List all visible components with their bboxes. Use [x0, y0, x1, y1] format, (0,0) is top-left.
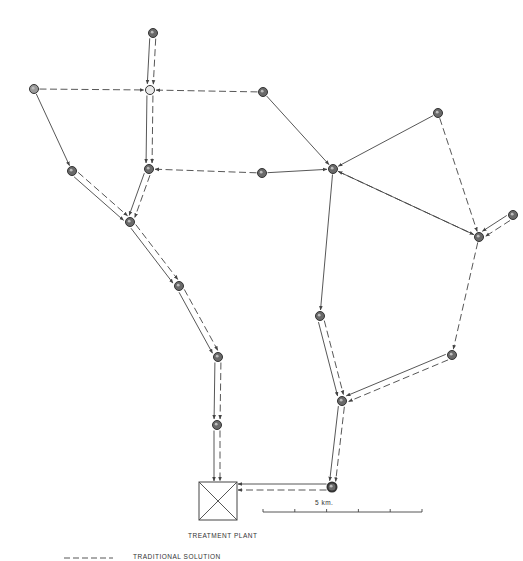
- optimised-edge-N1-N2: [147, 38, 149, 84]
- traditional-edge-N3-N2: [39, 89, 144, 90]
- treatment-plant: [199, 482, 237, 520]
- traditional-edge-N2-N6: [152, 96, 153, 164]
- node-N2: [146, 86, 155, 95]
- optimised-edge-N15-N18: [214, 362, 215, 419]
- optimised-edge-N14-N17: [318, 322, 337, 396]
- scale-label: 5 km.: [315, 499, 333, 506]
- traditional-edge-N6-N10: [135, 175, 150, 217]
- traditional-edge-N10-N13: [136, 225, 178, 280]
- traditional-edge-N7-N6: [155, 169, 257, 173]
- network-diagram: [0, 0, 523, 561]
- optimised-edge-N2-N6: [146, 95, 147, 163]
- optimised-edge-N6-N10: [129, 173, 144, 215]
- traditional-edge-N11-N16: [453, 242, 477, 349]
- optimised-edge-N7-N8: [267, 169, 327, 172]
- traditional-edge-N4-N2: [156, 90, 258, 92]
- optimised-edge-N3-N5: [36, 94, 69, 166]
- traditional-solution-edges: [39, 39, 510, 490]
- optimised-edge-N5-N10: [74, 177, 123, 220]
- legend-label-traditional: TRADITIONAL SOLUTION: [133, 553, 221, 560]
- optimised-edge-N12-N11: [482, 215, 506, 231]
- scale-bar: [263, 509, 422, 512]
- optimised-solution-edges: [36, 38, 506, 484]
- traditional-edge-N15-N18: [220, 363, 221, 420]
- traditional-edge-N1-N2: [153, 39, 155, 85]
- traditional-edge-N12-N11: [486, 221, 510, 237]
- optimised-edge-N4-N8: [267, 96, 329, 164]
- optimised-edge-N16-N17: [346, 354, 445, 396]
- traditional-edge-N14-N17: [324, 321, 343, 395]
- optimised-edge-N9-N8: [338, 116, 433, 167]
- traditional-edge-N16-N17: [349, 360, 448, 402]
- plant-label: TREATMENT PLANT: [188, 532, 257, 539]
- traditional-edge-N8-N11: [338, 171, 474, 234]
- network-nodes: [30, 29, 518, 492]
- traditional-edge-N5-N10: [78, 172, 127, 215]
- optimised-edge-N13-N15: [179, 292, 212, 353]
- traditional-edge-N13-N15: [184, 289, 217, 350]
- optimised-edge-N8-N14: [321, 174, 333, 310]
- optimised-edge-N10-N13: [131, 228, 173, 283]
- traditional-edge-N9-N11: [440, 118, 477, 231]
